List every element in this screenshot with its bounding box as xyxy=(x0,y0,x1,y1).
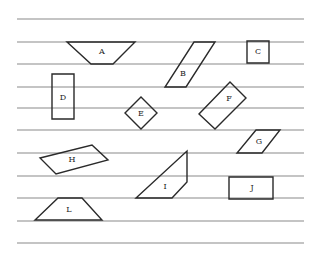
shape-label: G xyxy=(256,137,262,146)
shape-label: C xyxy=(255,47,261,56)
shapes-diagram: ABCDEFGHIJL xyxy=(0,0,318,254)
shape-label: F xyxy=(226,94,232,103)
shape-label: L xyxy=(66,205,72,214)
shape-label: D xyxy=(60,93,66,102)
shape-label: B xyxy=(180,69,186,78)
shape-label: H xyxy=(69,155,76,164)
background xyxy=(0,0,318,254)
shape-label: J xyxy=(249,183,253,192)
shape-label: A xyxy=(98,47,105,56)
shape-label: E xyxy=(138,109,144,118)
shape-label: I xyxy=(163,182,166,191)
